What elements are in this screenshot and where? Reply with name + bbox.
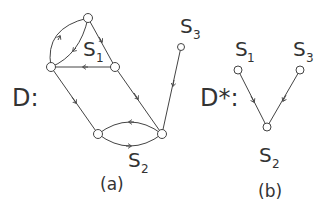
edge-arrow bbox=[134, 93, 138, 99]
node-s2 bbox=[263, 123, 271, 131]
graph-label-d: D: bbox=[12, 84, 39, 112]
edge-arrow bbox=[72, 97, 76, 103]
digraph-d-star-nodes bbox=[234, 66, 304, 131]
label-s2-sub: 2 bbox=[141, 162, 149, 176]
digraph-d bbox=[50, 18, 181, 146]
label-s2: S bbox=[259, 143, 272, 167]
label-s1-sub: 1 bbox=[247, 51, 255, 65]
label-s3: S bbox=[293, 37, 306, 61]
label-s1: S bbox=[83, 37, 96, 61]
node-left bbox=[47, 63, 56, 72]
label-s3-sub: 3 bbox=[306, 51, 314, 65]
node-s3 bbox=[296, 66, 304, 74]
edge-s3-botr bbox=[162, 47, 181, 134]
label-s3-sub: 3 bbox=[193, 28, 201, 42]
node-botl bbox=[94, 130, 103, 139]
edge-botr-botl bbox=[98, 122, 162, 134]
label-s2: S bbox=[128, 148, 141, 172]
node-top bbox=[84, 14, 93, 23]
edge-arrow bbox=[58, 36, 60, 40]
graph-label-d-star: D*: bbox=[200, 84, 239, 112]
node-s1 bbox=[234, 66, 242, 74]
edge-botl-botr bbox=[98, 134, 162, 146]
node-s3 bbox=[178, 44, 185, 51]
label-s3: S bbox=[180, 14, 193, 38]
caption-b: (b) bbox=[258, 181, 282, 201]
label-s2-sub: 2 bbox=[272, 157, 280, 171]
edge-s3-s2 bbox=[267, 70, 300, 127]
edge-arrow bbox=[251, 96, 254, 102]
caption-a: (a) bbox=[100, 174, 124, 194]
node-botr bbox=[158, 130, 167, 139]
label-s1: S bbox=[235, 37, 248, 61]
edge-mid-botr bbox=[115, 67, 162, 134]
digraph-d-nodes bbox=[47, 14, 185, 139]
diagram-canvas: S 1 S 2 S 3 D: (a) S 1 S 3 S 2 D*: (b) bbox=[0, 0, 317, 210]
label-s1-sub: 1 bbox=[96, 51, 104, 65]
digraph-d-star bbox=[238, 70, 300, 127]
node-mid bbox=[111, 63, 120, 72]
